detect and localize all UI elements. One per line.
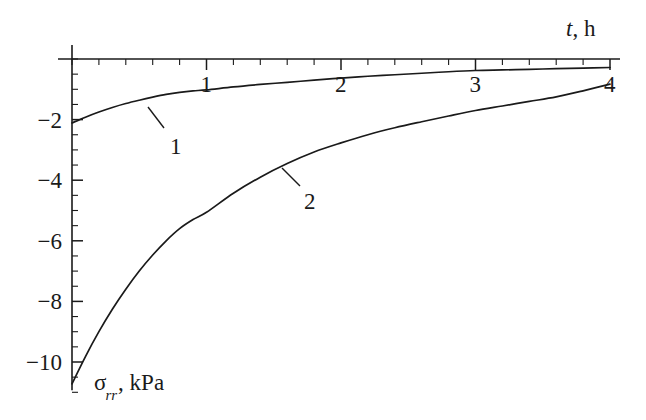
y-axis-title: σrr, kPa bbox=[94, 371, 164, 399]
curve-label-2: 2 bbox=[304, 190, 316, 213]
x-tick-label: 4 bbox=[604, 73, 616, 96]
curve-2 bbox=[72, 84, 610, 384]
x-axis-title: t, h bbox=[566, 17, 595, 40]
y-tick-label: −10 bbox=[6, 351, 62, 374]
chart-figure: t, h σrr, kPa 1234 −2−4−6−8−10 12 bbox=[0, 0, 646, 420]
curve-label-1: 1 bbox=[170, 135, 182, 158]
data-series-group bbox=[72, 67, 610, 383]
y-tick-label: −8 bbox=[6, 290, 62, 313]
x-tick-label: 1 bbox=[201, 73, 213, 96]
plot-canvas bbox=[0, 0, 646, 420]
y-tick-label: −2 bbox=[6, 109, 62, 132]
tick-marks-group bbox=[72, 59, 610, 392]
y-axis-title-subscript: rr bbox=[105, 387, 117, 403]
leader-line-2 bbox=[282, 168, 300, 186]
y-tick-label: −4 bbox=[6, 169, 62, 192]
y-axis-title-units: , kPa bbox=[118, 370, 164, 395]
x-axis-title-units: , h bbox=[572, 16, 595, 41]
x-tick-label: 2 bbox=[335, 73, 347, 96]
leader-line-1 bbox=[148, 107, 164, 128]
y-tick-label: −6 bbox=[6, 230, 62, 253]
x-tick-label: 3 bbox=[470, 73, 482, 96]
